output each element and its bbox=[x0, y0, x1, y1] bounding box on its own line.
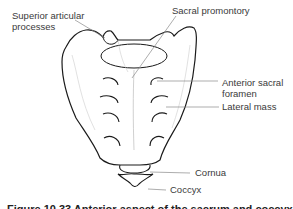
label-line: foramen bbox=[222, 88, 283, 99]
label-coccyx: Coccyx bbox=[170, 184, 201, 195]
label-cornua: Cornua bbox=[195, 167, 226, 178]
label-line: Superior articular bbox=[12, 10, 84, 21]
coccyx-shape bbox=[118, 174, 153, 187]
cornua-shape bbox=[120, 165, 150, 173]
label-line: processes bbox=[12, 21, 84, 32]
label-anterior-sacral-foramen: Anterior sacral foramen bbox=[222, 77, 283, 99]
figure-caption: Figure 10.33 Anterior aspect of the sacr… bbox=[7, 203, 293, 209]
label-line: Anterior sacral bbox=[222, 77, 283, 88]
label-superior-articular-processes: Superior articular processes bbox=[12, 10, 84, 32]
label-lateral-mass: Lateral mass bbox=[222, 101, 276, 112]
label-sacral-promontory: Sacral promontory bbox=[172, 5, 250, 16]
